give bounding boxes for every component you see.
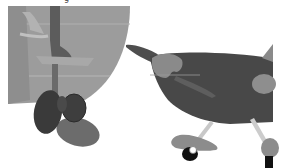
propeller (30, 88, 102, 151)
airplane (126, 44, 276, 124)
caption-fragment: g (64, 0, 69, 3)
illustration-scene: g (0, 0, 283, 168)
landing-gear (171, 118, 279, 168)
scene-svg (0, 0, 283, 168)
